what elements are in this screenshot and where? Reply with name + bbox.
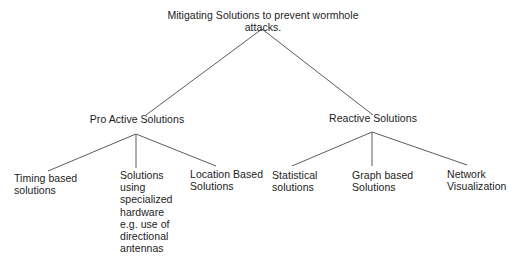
edge-pro-active-to-location-based	[136, 134, 216, 166]
node-graph-based-solutions: Graph based Solutions	[352, 169, 432, 193]
node-statistical-solutions: Statistical solutions	[272, 169, 342, 193]
node-pro-active-solutions: Pro Active Solutions	[86, 113, 188, 125]
node-timing-based-solutions: Timing based solutions	[14, 172, 94, 196]
diagram-canvas: Mitigating Solutions to prevent wormhole…	[0, 0, 525, 271]
node-location-based-solutions: Location Based Solutions	[190, 168, 270, 192]
tree-edges	[0, 0, 525, 271]
edge-reactive-to-network-visualization	[372, 132, 467, 165]
node-reactive-solutions: Reactive Solutions	[327, 112, 419, 124]
node-root: Mitigating Solutions to prevent wormhole…	[152, 9, 374, 33]
node-network-visualization: Network Visualization	[447, 168, 522, 192]
node-specialized-hardware-solutions: Solutions using specialized hardware e.g…	[120, 169, 190, 254]
edge-pro-active-to-timing-based	[48, 134, 136, 171]
edge-reactive-to-statistical	[292, 132, 372, 166]
edge-root-to-pro-active	[146, 29, 262, 115]
edge-root-to-reactive	[262, 29, 373, 115]
